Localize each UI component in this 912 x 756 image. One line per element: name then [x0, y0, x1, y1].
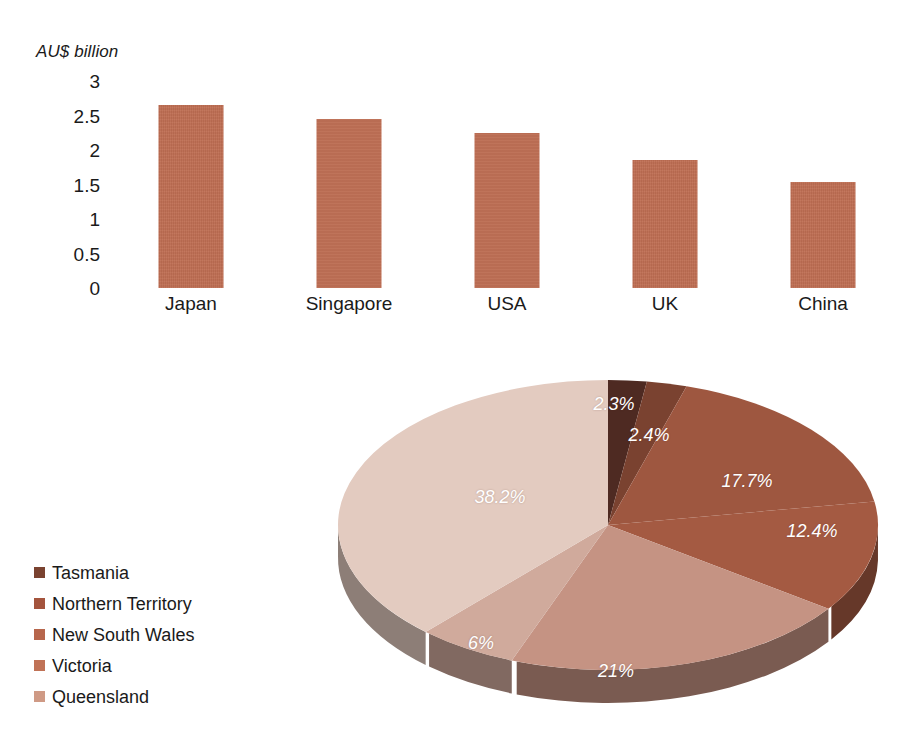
y-axis-tick-label: 2.5: [40, 107, 100, 126]
bar-column: Singapore: [270, 81, 428, 288]
pie-chart-svg: [336, 377, 881, 717]
pie-top-face: [338, 380, 878, 670]
bar-usa: [475, 133, 540, 288]
bar-chart: AU$ billion 32.521.510.50 JapanSingapore…: [0, 0, 912, 345]
legend-item-queensland[interactable]: Queensland: [34, 681, 304, 712]
bar-category-label: UK: [586, 293, 744, 315]
legend-item-label: Victoria: [52, 657, 112, 675]
bar-category-label: Singapore: [270, 293, 428, 315]
legend-swatch-icon: [34, 567, 45, 578]
legend-item-northern-territory[interactable]: Northern Territory: [34, 588, 304, 619]
legend-item-label: Tasmania: [52, 564, 129, 582]
y-axis-tick-label: 1: [40, 210, 100, 229]
pie-chart-graphic: 2.3%2.4%17.7%12.4%21%6%38.2%: [336, 377, 881, 717]
legend-item-label: New South Wales: [52, 626, 194, 644]
bar-uk: [633, 160, 698, 288]
bar-chart-y-axis: 32.521.510.50: [40, 81, 100, 299]
bar-column: UK: [586, 81, 744, 288]
legend-item-victoria[interactable]: Victoria: [34, 650, 304, 681]
bar-column: China: [744, 81, 902, 288]
y-axis-tick-label: 2: [40, 141, 100, 160]
bar-chart-plot-area: JapanSingaporeUSAUKChina: [112, 81, 902, 288]
y-axis-tick-label: 3: [40, 72, 100, 91]
bar-singapore: [317, 119, 382, 288]
bar-column: USA: [428, 81, 586, 288]
legend-swatch-icon: [34, 691, 45, 702]
legend-swatch-icon: [34, 629, 45, 640]
legend-swatch-icon: [34, 660, 45, 671]
legend-item-tasmania[interactable]: Tasmania: [34, 557, 304, 588]
y-axis-tick-label: 1.5: [40, 176, 100, 195]
pie-chart: 2.3%2.4%17.7%12.4%21%6%38.2% TasmaniaNor…: [0, 345, 912, 756]
legend-swatch-icon: [34, 598, 45, 609]
legend-item-label: Queensland: [52, 688, 149, 706]
bar-category-label: Japan: [112, 293, 270, 315]
pie-chart-legend: TasmaniaNorthern TerritoryNew South Wale…: [34, 557, 304, 712]
y-axis-tick-label: 0.5: [40, 245, 100, 264]
bar-japan: [159, 105, 224, 288]
bar-category-label: China: [744, 293, 902, 315]
y-axis-tick-label: 0: [40, 279, 100, 298]
legend-item-new-south-wales[interactable]: New South Wales: [34, 619, 304, 650]
legend-item-label: Northern Territory: [52, 595, 192, 613]
bar-chart-y-axis-title: AU$ billion: [36, 42, 118, 62]
bar-category-label: USA: [428, 293, 586, 315]
bar-china: [791, 182, 856, 288]
bar-column: Japan: [112, 81, 270, 288]
